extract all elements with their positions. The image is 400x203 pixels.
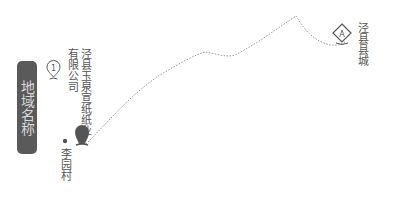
dot-icon [63,139,67,143]
county-label: 泾县县城 [357,22,368,69]
company-label: 泾县玉泉宣纸纸业有限公司 [66,48,92,138]
pin-number: 1 [51,64,56,73]
numbered-pin-icon[interactable]: 1 [47,60,61,79]
pin-letter: A [339,30,345,39]
village-name: 李园村 [60,148,71,181]
company-name: 泾县玉泉宣纸纸业有限公司 [66,48,92,138]
route-path [86,16,345,144]
legend-badge: 地域名称 [17,61,37,154]
village-label: 李园村 [60,148,71,184]
diamond-pin-icon[interactable]: A [333,24,351,45]
legend-label: 地域名称 [20,80,34,136]
county-name: 泾县县城 [357,22,368,66]
